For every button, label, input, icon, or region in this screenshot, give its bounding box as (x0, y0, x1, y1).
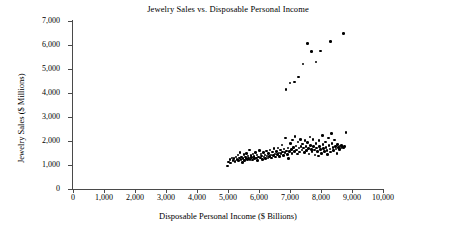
x-tick-label: 10,000 (360, 194, 406, 202)
data-point (295, 145, 298, 148)
data-point (321, 134, 324, 137)
data-point (330, 132, 333, 135)
data-point (289, 142, 292, 145)
data-point (297, 76, 300, 79)
chart-title: Jewelry Sales vs. Disposable Personal In… (0, 4, 456, 14)
data-point (326, 149, 329, 152)
data-point (318, 139, 321, 142)
data-point (278, 155, 281, 158)
y-tick-mark (68, 141, 72, 142)
y-tick-mark (68, 45, 72, 46)
data-point (333, 139, 336, 142)
data-point (287, 157, 290, 160)
data-point (328, 144, 331, 147)
data-point (315, 61, 318, 64)
plot-area (73, 21, 383, 189)
y-tick-mark (68, 165, 72, 166)
data-point (289, 82, 292, 85)
data-point (282, 154, 285, 157)
data-point (226, 165, 229, 168)
data-point (309, 136, 312, 139)
data-point (310, 50, 313, 53)
data-point (319, 50, 322, 53)
data-point (336, 152, 339, 155)
data-point (343, 145, 346, 148)
data-point (299, 138, 302, 141)
y-tick-mark (68, 189, 72, 190)
y-axis-title: Jewelry Sales ($ Millions) (16, 74, 26, 163)
scatter-chart-figure: Jewelry Sales vs. Disposable Personal In… (0, 0, 456, 239)
y-tick-mark (68, 69, 72, 70)
data-point (285, 88, 288, 91)
y-tick-mark (68, 93, 72, 94)
data-point (291, 139, 294, 142)
data-point (342, 32, 345, 35)
data-point (293, 81, 296, 84)
data-point (239, 151, 242, 154)
data-point (326, 153, 329, 156)
data-point (308, 153, 311, 156)
data-point (312, 138, 315, 141)
data-point (281, 144, 284, 147)
data-point (286, 153, 289, 156)
data-point (296, 153, 299, 156)
y-tick-mark (68, 117, 72, 118)
x-axis-title: Disposable Personal Income ($ Billions) (0, 211, 456, 221)
data-point (274, 156, 277, 159)
data-point (324, 141, 327, 144)
data-point (302, 63, 305, 66)
data-point (297, 141, 300, 144)
data-point (229, 162, 232, 165)
data-point (258, 149, 261, 152)
data-point (317, 155, 320, 158)
data-point (298, 151, 301, 154)
data-point (256, 159, 259, 162)
data-point (294, 135, 297, 138)
data-point (284, 137, 287, 140)
data-point (315, 142, 318, 145)
data-point (248, 149, 251, 152)
data-point (270, 157, 273, 160)
data-point (327, 137, 330, 140)
data-point (329, 40, 332, 43)
y-tick-mark (68, 21, 72, 22)
data-point (301, 143, 304, 146)
data-point (306, 42, 309, 45)
data-point (322, 143, 325, 146)
data-point (345, 131, 348, 134)
data-point (331, 142, 334, 145)
